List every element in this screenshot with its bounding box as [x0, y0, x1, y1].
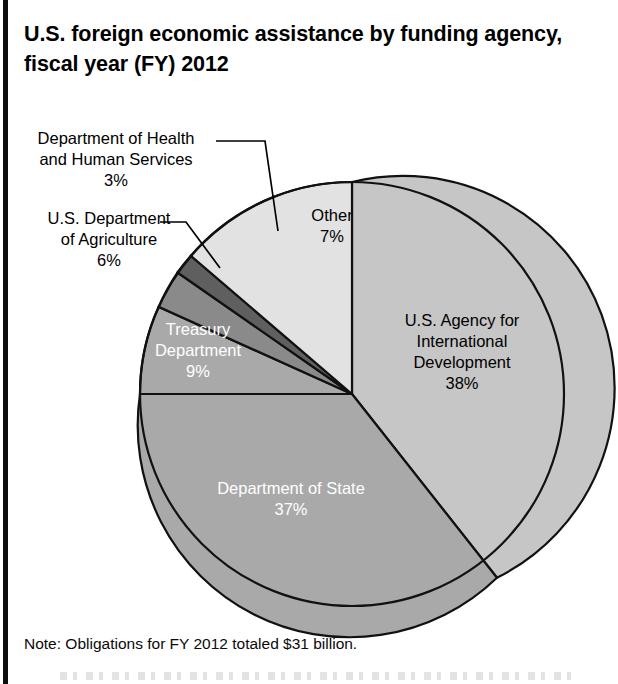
- slice-label-hhs-name: Department of Health and Human Services: [38, 129, 195, 168]
- slice-label-other: Other7%: [296, 205, 368, 247]
- slice-label-treasury-name: Treasury Department: [155, 320, 241, 359]
- slice-label-usaid-pct: 38%: [388, 373, 536, 394]
- slice-label-usda-pct: 6%: [16, 250, 202, 271]
- slice-label-state-name: Department of State: [217, 479, 365, 497]
- slice-label-treasury-pct: 9%: [134, 361, 262, 382]
- slice-label-other-name: Other: [311, 206, 352, 224]
- chart-page: U.S. foreign economic assistance by fund…: [0, 0, 618, 684]
- chart-note: Note: Obligations for FY 2012 totaled $3…: [24, 634, 584, 654]
- slice-label-state: Department of State37%: [186, 478, 396, 520]
- slice-label-usda: U.S. Department of Agriculture6%: [16, 208, 202, 271]
- source-line-bleedthrough: [60, 672, 580, 680]
- slice-label-state-pct: 37%: [186, 499, 396, 520]
- slice-label-usaid: U.S. Agency for International Developmen…: [388, 310, 536, 394]
- slice-label-usaid-name: U.S. Agency for International Developmen…: [405, 311, 520, 371]
- slice-label-other-pct: 7%: [296, 226, 368, 247]
- slice-label-treasury: Treasury Department9%: [134, 319, 262, 382]
- pie-chart: Department of Health and Human Services3…: [0, 0, 618, 684]
- slice-label-hhs-pct: 3%: [16, 170, 216, 191]
- slice-label-usda-name: U.S. Department of Agriculture: [48, 209, 171, 248]
- slice-label-hhs: Department of Health and Human Services3…: [16, 128, 216, 191]
